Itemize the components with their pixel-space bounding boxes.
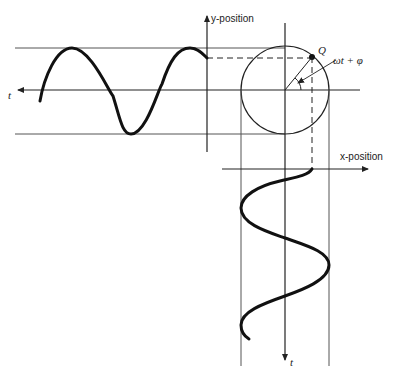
angle-leader <box>298 60 336 83</box>
t-label-horizontal: t <box>8 89 12 101</box>
t-label-vertical: t <box>290 356 294 368</box>
y-position-label: y-position <box>211 13 254 24</box>
x-position-label: x-position <box>340 151 383 162</box>
y-sine-curve <box>40 48 207 134</box>
angle-arc <box>295 78 301 90</box>
shm-diagram: t y-position t Q ωt + φ x-position <box>0 0 396 380</box>
angle-label: ωt + φ <box>333 54 363 66</box>
radius-line <box>285 57 312 90</box>
point-Q-label: Q <box>318 44 326 56</box>
